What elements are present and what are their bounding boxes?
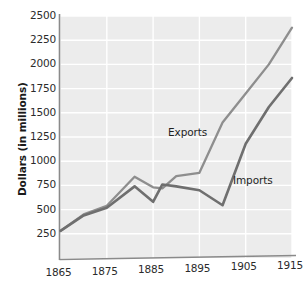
plot-area bbox=[0, 0, 304, 292]
series-label-imports: Imports bbox=[233, 174, 273, 186]
series-label-exports: Exports bbox=[168, 126, 207, 138]
line-chart: Dollars (in millions) 250500750100012501… bbox=[0, 0, 304, 292]
